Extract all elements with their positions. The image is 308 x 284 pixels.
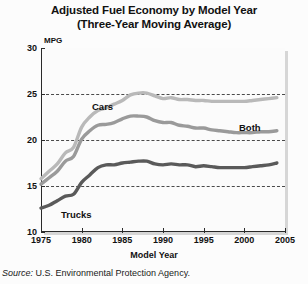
chart-figure: Adjusted Fuel Economy by Model Year (Thr… <box>0 0 308 284</box>
y-tick-label-30: 30 <box>3 43 37 53</box>
x-tick-label-1995: 1995 <box>184 235 224 245</box>
y-axis: 1015202530 <box>0 48 37 232</box>
chart-title-line-1: Adjusted Fuel Economy by Model Year <box>0 3 308 17</box>
source-label: Source: <box>2 268 33 278</box>
y-tick-label-20: 20 <box>3 135 37 145</box>
series-label-both: Both <box>239 122 261 133</box>
x-axis: 1975198019851990199520002005 <box>0 235 308 249</box>
x-tick-label-1980: 1980 <box>62 235 102 245</box>
x-axis-title: Model Year <box>0 250 308 260</box>
series-line-trucks <box>41 161 277 208</box>
source-text: U.S. Environmental Protection Agency. <box>36 268 190 278</box>
chart-title: Adjusted Fuel Economy by Model Year (Thr… <box>0 3 308 31</box>
x-tick-mark-2005 <box>285 228 286 233</box>
x-tick-label-2005: 2005 <box>265 235 305 245</box>
series-label-cars: Cars <box>92 101 113 112</box>
chart-title-line-2: (Three-Year Moving Average) <box>0 17 308 31</box>
x-tick-label-1985: 1985 <box>102 235 142 245</box>
series-label-trucks: Trucks <box>61 209 92 220</box>
y-tick-label-15: 15 <box>3 181 37 191</box>
source-note: Source: U.S. Environmental Protection Ag… <box>2 268 190 278</box>
y-axis-unit-label: MPG <box>44 36 62 45</box>
data-series-layer <box>41 48 285 232</box>
y-tick-label-25: 25 <box>3 89 37 99</box>
x-tick-label-1975: 1975 <box>21 235 61 245</box>
x-tick-label-1990: 1990 <box>143 235 183 245</box>
x-tick-label-2000: 2000 <box>224 235 264 245</box>
